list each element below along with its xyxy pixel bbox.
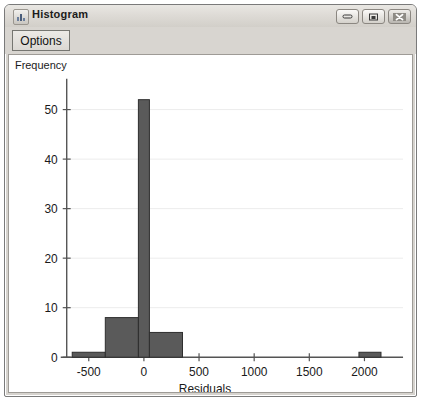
close-icon[interactable] — [388, 9, 411, 24]
x-axis-label: Residuals — [179, 382, 231, 392]
window-title: Histogram — [32, 8, 88, 20]
histogram-bar — [359, 352, 381, 357]
y-tick-label: 50 — [44, 103, 58, 117]
x-tick-label: 0 — [141, 365, 148, 379]
y-tick-label: 10 — [44, 301, 58, 315]
x-tick-label: 1000 — [241, 365, 268, 379]
maximize-icon[interactable] — [362, 9, 385, 24]
x-tick-label: -500 — [77, 365, 101, 379]
y-axis-label: Frequency — [15, 59, 67, 71]
y-tick-label: 40 — [44, 153, 58, 167]
y-tick-label: 20 — [44, 252, 58, 266]
histogram-bar — [149, 332, 182, 357]
y-tick-label: 0 — [51, 351, 58, 365]
histogram-window: Histogram Options Frequency01020304050-5… — [4, 4, 417, 397]
histogram-app-icon — [13, 9, 29, 25]
histogram-bar — [72, 352, 105, 357]
window-title-bar[interactable]: Histogram — [5, 5, 416, 28]
histogram-plot: Frequency01020304050-5000500100015002000… — [9, 55, 412, 392]
minimize-icon[interactable] — [336, 9, 359, 24]
histogram-bar — [138, 100, 149, 358]
x-tick-label: 1500 — [296, 365, 323, 379]
x-tick-label: 2000 — [351, 365, 378, 379]
options-button[interactable]: Options — [12, 30, 70, 51]
y-tick-label: 30 — [44, 202, 58, 216]
histogram-chart-panel[interactable]: Frequency01020304050-5000500100015002000… — [8, 54, 413, 393]
histogram-bar — [105, 318, 138, 358]
window-toolbar: Options — [5, 27, 416, 54]
x-tick-label: 500 — [189, 365, 209, 379]
